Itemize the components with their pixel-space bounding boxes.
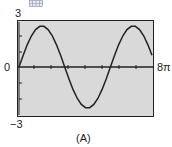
x-max-label: 8π — [157, 62, 171, 73]
calculator-grid-icon — [29, 0, 43, 7]
sine-curve-plot — [17, 20, 154, 117]
y-min-label: −3 — [10, 119, 23, 130]
y-max-label: 3 — [15, 8, 21, 19]
x-min-label: 0 — [4, 62, 10, 73]
chart-caption: (A) — [76, 133, 91, 144]
